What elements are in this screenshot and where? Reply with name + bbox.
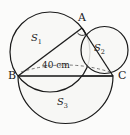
- region-label-s3: S3: [57, 97, 68, 110]
- region-label-s3-subscript: 3: [64, 102, 68, 110]
- region-label-s3-base: S: [57, 96, 64, 107]
- region-label-s2-base: S: [94, 42, 101, 53]
- region-label-s1: S1: [31, 33, 42, 46]
- measurement-label-bc: 40 cm: [42, 61, 70, 70]
- vertex-label-b: B: [8, 70, 16, 81]
- region-label-s1-base: S: [31, 32, 38, 43]
- vertex-label-a: A: [78, 12, 86, 23]
- region-label-s2: S2: [94, 43, 105, 56]
- region-label-s1-subscript: 1: [38, 38, 42, 46]
- geometry-figure: A B C S1 S2 S3 40 cm: [0, 0, 130, 135]
- region-label-s2-subscript: 2: [101, 48, 105, 56]
- vertex-label-c: C: [118, 70, 126, 81]
